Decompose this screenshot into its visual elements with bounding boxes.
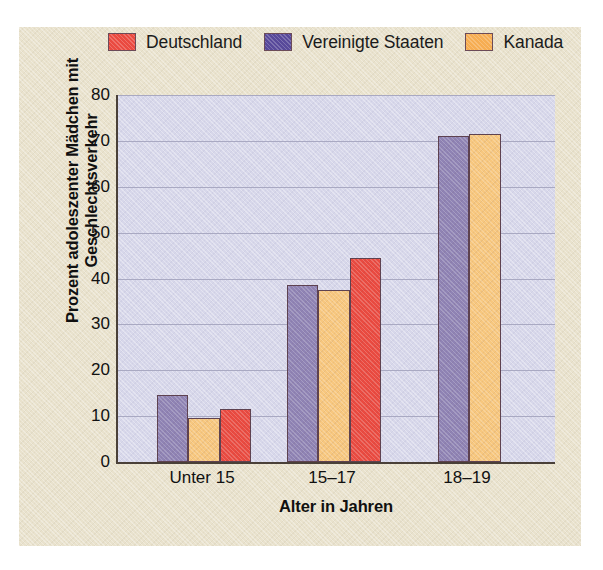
x-tick-label: 15–17 [308, 468, 355, 488]
legend-label-deutschland: Deutschland [146, 32, 242, 53]
legend-swatch-vereinigte-staaten [264, 33, 292, 51]
legend-swatch-kanada [465, 33, 493, 51]
y-tick-label: 60 [70, 177, 110, 197]
x-axis-title: Alter in Jahren [116, 497, 556, 516]
figure: Deutschland Vereinigte Staaten Kanada Pr… [0, 0, 603, 570]
bar-kanada-15-17 [318, 290, 350, 462]
bar-kanada-18-19 [469, 134, 501, 462]
y-tick-label: 80 [70, 85, 110, 105]
plot-area [116, 95, 555, 464]
y-tick-label: 20 [70, 360, 110, 380]
chart-legend: Deutschland Vereinigte Staaten Kanada [108, 27, 528, 57]
x-tick-label: 18–19 [443, 468, 490, 488]
y-tick-label: 30 [70, 314, 110, 334]
x-tick-label: Unter 15 [169, 468, 234, 488]
legend-swatch-deutschland [108, 33, 136, 51]
legend-item-deutschland: Deutschland [108, 32, 242, 53]
gridline [118, 95, 555, 96]
y-tick-label: 40 [70, 269, 110, 289]
bar-vereinigte-staaten-unter-15 [157, 395, 189, 462]
bar-kanada-unter-15 [188, 418, 220, 462]
bar-deutschland-15-17 [350, 258, 382, 462]
legend-label-vereinigte-staaten: Vereinigte Staaten [302, 32, 443, 53]
y-tick-label: 10 [70, 406, 110, 426]
y-tick-label: 0 [70, 452, 110, 472]
y-tick-label: 70 [70, 131, 110, 151]
bar-deutschland-unter-15 [220, 409, 252, 462]
legend-item-vereinigte-staaten: Vereinigte Staaten [264, 32, 443, 53]
legend-item-kanada: Kanada [465, 32, 563, 53]
y-axis-ticks: 01020304050607080 [66, 95, 110, 462]
bar-vereinigte-staaten-18-19 [438, 136, 470, 462]
legend-label-kanada: Kanada [503, 32, 563, 53]
y-tick-label: 50 [70, 223, 110, 243]
bar-vereinigte-staaten-15-17 [287, 285, 319, 462]
x-axis-ticks: Unter 1515–1718–19 [116, 468, 553, 494]
